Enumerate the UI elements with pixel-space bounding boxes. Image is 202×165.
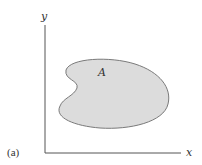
diagram-canvas: A y x (a) (0, 0, 202, 165)
panel-label: (a) (7, 146, 20, 159)
x-axis-label: x (186, 146, 193, 159)
region-a-shape (59, 59, 169, 128)
y-axis-label: y (40, 10, 48, 23)
region-a-label: A (97, 66, 106, 79)
